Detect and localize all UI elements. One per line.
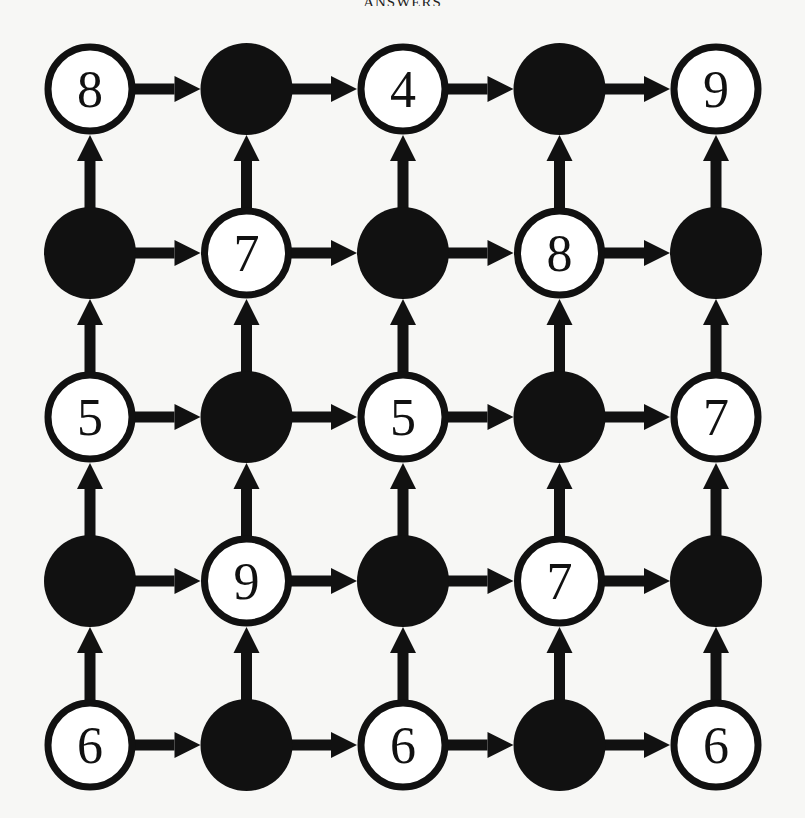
arrow-head-icon xyxy=(488,240,514,266)
arrow-head-icon xyxy=(644,568,670,594)
arrow-head-icon xyxy=(331,568,357,594)
arrow-head-icon xyxy=(175,76,201,102)
edge-r3c1-to-r3c2 xyxy=(291,568,358,594)
filled-circle-icon xyxy=(514,699,606,791)
arrow-head-icon xyxy=(547,299,573,325)
edge-r4c2-to-r4c3 xyxy=(447,732,514,758)
node-number-label: 5 xyxy=(77,389,103,446)
numbered-node: 6 xyxy=(48,703,132,787)
arrow-head-icon xyxy=(390,627,416,653)
edge-r4c4-to-r3c4 xyxy=(703,627,729,701)
arrow-head-icon xyxy=(488,76,514,102)
filled-circle-icon xyxy=(514,371,606,463)
filled-circle-icon xyxy=(201,699,293,791)
edge-r1c1-to-r0c1 xyxy=(234,135,260,209)
filled-circle-icon xyxy=(44,535,136,627)
arrow-head-icon xyxy=(390,135,416,161)
filled-circle-icon xyxy=(357,207,449,299)
filled-circle-icon xyxy=(670,535,762,627)
edge-r0c2-to-r0c3 xyxy=(447,76,514,102)
node-number-label: 7 xyxy=(703,389,729,446)
arrow-head-icon xyxy=(547,627,573,653)
arrow-head-icon xyxy=(234,627,260,653)
filled-node xyxy=(44,535,136,627)
edge-r4c0-to-r3c0 xyxy=(77,627,103,701)
arrow-head-icon xyxy=(77,463,103,489)
filled-node xyxy=(514,43,606,135)
filled-circle-icon xyxy=(357,535,449,627)
edge-r4c2-to-r3c2 xyxy=(390,627,416,701)
filled-circle-icon xyxy=(44,207,136,299)
directed-grid-diagram: 8497855797666 xyxy=(0,0,805,818)
edge-r1c2-to-r1c3 xyxy=(447,240,514,266)
arrow-head-icon xyxy=(77,299,103,325)
edge-r3c0-to-r2c0 xyxy=(77,463,103,537)
filled-node xyxy=(357,535,449,627)
filled-node xyxy=(514,371,606,463)
filled-node xyxy=(670,535,762,627)
edge-r2c1-to-r2c2 xyxy=(291,404,358,430)
edge-r2c2-to-r1c2 xyxy=(390,299,416,373)
edge-r2c0-to-r1c0 xyxy=(77,299,103,373)
arrow-head-icon xyxy=(547,135,573,161)
arrow-head-icon xyxy=(703,463,729,489)
edge-r4c0-to-r4c1 xyxy=(134,732,201,758)
arrow-head-icon xyxy=(77,135,103,161)
arrow-head-icon xyxy=(644,76,670,102)
edge-r1c3-to-r1c4 xyxy=(604,240,671,266)
edge-r2c1-to-r1c1 xyxy=(234,299,260,373)
arrow-head-icon xyxy=(390,299,416,325)
arrow-head-icon xyxy=(234,299,260,325)
numbered-node: 9 xyxy=(674,47,758,131)
edge-r1c2-to-r0c2 xyxy=(390,135,416,209)
node-number-label: 8 xyxy=(547,225,573,282)
numbered-node: 6 xyxy=(674,703,758,787)
arrow-head-icon xyxy=(488,732,514,758)
filled-circle-icon xyxy=(514,43,606,135)
arrow-head-icon xyxy=(331,732,357,758)
numbered-node: 7 xyxy=(518,539,602,623)
edge-r1c3-to-r0c3 xyxy=(547,135,573,209)
numbered-node: 5 xyxy=(361,375,445,459)
arrow-head-icon xyxy=(175,404,201,430)
edge-r2c3-to-r1c3 xyxy=(547,299,573,373)
arrow-head-icon xyxy=(488,568,514,594)
edge-r3c2-to-r3c3 xyxy=(447,568,514,594)
edge-r3c2-to-r2c2 xyxy=(390,463,416,537)
numbered-node: 7 xyxy=(674,375,758,459)
edge-r1c1-to-r1c2 xyxy=(291,240,358,266)
arrow-head-icon xyxy=(77,627,103,653)
arrow-head-icon xyxy=(488,404,514,430)
edge-r0c0-to-r0c1 xyxy=(134,76,201,102)
edge-r2c4-to-r1c4 xyxy=(703,299,729,373)
edge-r4c3-to-r4c4 xyxy=(604,732,671,758)
node-number-label: 6 xyxy=(390,717,416,774)
filled-circle-icon xyxy=(201,43,293,135)
node-number-label: 6 xyxy=(77,717,103,774)
arrow-head-icon xyxy=(331,240,357,266)
filled-circle-icon xyxy=(670,207,762,299)
node-number-label: 8 xyxy=(77,61,103,118)
numbered-node: 4 xyxy=(361,47,445,131)
node-number-label: 7 xyxy=(547,553,573,610)
arrow-head-icon xyxy=(703,299,729,325)
node-number-label: 9 xyxy=(234,553,260,610)
edge-r1c4-to-r0c4 xyxy=(703,135,729,209)
edge-r0c1-to-r0c2 xyxy=(291,76,358,102)
node-number-label: 7 xyxy=(234,225,260,282)
arrow-head-icon xyxy=(175,568,201,594)
node-number-label: 9 xyxy=(703,61,729,118)
filled-node xyxy=(357,207,449,299)
arrow-head-icon xyxy=(547,463,573,489)
edge-r4c1-to-r4c2 xyxy=(291,732,358,758)
arrow-head-icon xyxy=(644,732,670,758)
numbered-node: 5 xyxy=(48,375,132,459)
filled-node xyxy=(44,207,136,299)
edge-r4c3-to-r3c3 xyxy=(547,627,573,701)
filled-node xyxy=(201,43,293,135)
edge-r1c0-to-r1c1 xyxy=(134,240,201,266)
arrow-head-icon xyxy=(331,404,357,430)
arrow-head-icon xyxy=(331,76,357,102)
arrow-head-icon xyxy=(703,627,729,653)
edge-r3c3-to-r2c3 xyxy=(547,463,573,537)
